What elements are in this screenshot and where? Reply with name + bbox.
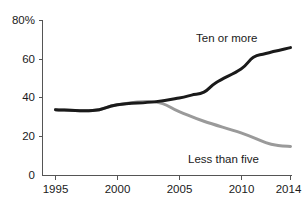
x-axis-tick-label-2000: 2000 — [105, 183, 131, 195]
series-label-less-than-five: Less than five — [188, 153, 259, 165]
series-label-ten-or-more: Ten or more — [196, 32, 257, 44]
y-axis-tick-label-0: 0 — [29, 169, 35, 181]
x-axis-tick-label-2014: 2014 — [276, 183, 302, 195]
y-axis-ticks — [39, 21, 43, 137]
y-axis-tick-label-60: 60 — [22, 53, 35, 65]
x-axis-tick-label-2010: 2010 — [229, 183, 255, 195]
x-axis-tick-label-1995: 1995 — [43, 183, 69, 195]
x-axis-ticks — [56, 176, 291, 181]
y-axis-tick-label-20: 20 — [22, 130, 35, 142]
series-line-ten-or-more — [56, 48, 291, 111]
y-axis-tick-label-80: 80% — [12, 14, 35, 26]
chart-container: 80% 60 40 20 0 1995 2000 2005 2010 2014 … — [0, 0, 307, 209]
series-line-less-than-five — [56, 101, 291, 146]
y-axis-tick-label-40: 40 — [22, 91, 35, 103]
x-axis-tick-label-2005: 2005 — [167, 183, 193, 195]
line-chart: 80% 60 40 20 0 1995 2000 2005 2010 2014 … — [0, 0, 307, 209]
